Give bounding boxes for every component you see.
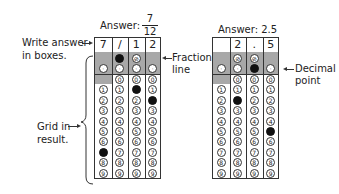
- digit-bubble-4[interactable]: 4: [217, 117, 226, 126]
- digit-bubble-9[interactable]: 9: [148, 169, 157, 178]
- digit-bubble-4[interactable]: 4: [99, 117, 108, 126]
- digit-bubble-1[interactable]: 1: [233, 85, 242, 94]
- digit-bubble-6[interactable]: 6: [148, 137, 157, 146]
- digit-bubble-5[interactable]: 5: [217, 127, 226, 136]
- decimal-point-bubble[interactable]: ·: [250, 64, 259, 73]
- digit-bubble-4[interactable]: 4: [148, 117, 157, 126]
- digit-bubble-3[interactable]: 3: [217, 106, 226, 115]
- grid-in-line2: result.: [37, 133, 70, 146]
- digit-bubble-7[interactable]: 7: [132, 148, 141, 157]
- digit-bubble-8[interactable]: 8: [148, 158, 157, 167]
- right-answer-title: Answer: 2.5: [218, 24, 277, 36]
- digit-bubble-9[interactable]: 9: [266, 169, 275, 178]
- decimal-point-bubble[interactable]: ·: [217, 64, 226, 73]
- digit-bubble-5[interactable]: 5: [99, 127, 108, 136]
- digit-bubble-6[interactable]: 6: [217, 137, 226, 146]
- digit-bubble-2[interactable]: 2: [233, 96, 242, 105]
- digit-bubble-3[interactable]: 3: [148, 106, 157, 115]
- digit-bubble-5[interactable]: 5: [132, 127, 141, 136]
- digit-bubble-6[interactable]: 6: [115, 137, 124, 146]
- answer-box[interactable]: [213, 38, 230, 52]
- digit-bubble-8[interactable]: 8: [217, 158, 226, 167]
- digit-bubble-0[interactable]: 0: [250, 75, 259, 84]
- digit-bubble-2[interactable]: 2: [99, 96, 108, 105]
- digit-bubble-8[interactable]: 8: [266, 158, 275, 167]
- digit-bubble-4[interactable]: 4: [266, 117, 275, 126]
- digit-bubble-9[interactable]: 9: [115, 169, 124, 178]
- digit-bubble-4[interactable]: 4: [250, 117, 259, 126]
- answer-box[interactable]: 1: [128, 38, 145, 52]
- digit-bubble-3[interactable]: 3: [250, 106, 259, 115]
- digit-bubble-6[interactable]: 6: [132, 137, 141, 146]
- digit-bubble-5[interactable]: 5: [266, 127, 275, 136]
- digit-bubble-8[interactable]: 8: [99, 158, 108, 167]
- digit-bubble-3[interactable]: 3: [132, 106, 141, 115]
- digit-bubble-6[interactable]: 6: [266, 137, 275, 146]
- digit-bubble-7[interactable]: 7: [148, 148, 157, 157]
- digit-bubble-7[interactable]: 7: [250, 148, 259, 157]
- write-answer-line1: Write answer: [22, 36, 88, 49]
- digit-bubble-0[interactable]: 0: [132, 75, 141, 84]
- digit-bubble-9[interactable]: 9: [99, 169, 108, 178]
- digit-bubble-4[interactable]: 4: [115, 117, 124, 126]
- decimal-point-bubble[interactable]: ·: [99, 64, 108, 73]
- digit-bubble-8[interactable]: 8: [132, 158, 141, 167]
- digit-bubble-2[interactable]: 2: [132, 96, 141, 105]
- digit-bubble-9[interactable]: 9: [217, 169, 226, 178]
- digit-bubble-3[interactable]: 3: [266, 106, 275, 115]
- digit-bubble-3[interactable]: 3: [233, 106, 242, 115]
- answer-box[interactable]: /: [112, 38, 129, 52]
- digit-bubble-8[interactable]: 8: [250, 158, 259, 167]
- digit-bubble-7[interactable]: 7: [115, 148, 124, 157]
- digit-bubble-1[interactable]: 1: [217, 85, 226, 94]
- column-divider: [112, 38, 113, 178]
- digit-bubble-2[interactable]: 2: [250, 96, 259, 105]
- digit-bubble-4[interactable]: 4: [132, 117, 141, 126]
- digit-bubble-7[interactable]: 7: [99, 148, 108, 157]
- digit-bubble-5[interactable]: 5: [233, 127, 242, 136]
- digit-bubble-2[interactable]: 2: [115, 96, 124, 105]
- digit-bubble-1[interactable]: 1: [132, 85, 141, 94]
- answer-box[interactable]: 7: [95, 38, 112, 52]
- fraction-slash-bubble[interactable]: ⊘: [132, 54, 141, 63]
- digit-bubble-5[interactable]: 5: [115, 127, 124, 136]
- answer-box[interactable]: 5: [263, 38, 280, 52]
- digit-bubble-1[interactable]: 1: [148, 85, 157, 94]
- digit-bubble-3[interactable]: 3: [99, 106, 108, 115]
- answer-box[interactable]: 2: [145, 38, 162, 52]
- digit-bubble-8[interactable]: 8: [233, 158, 242, 167]
- digit-bubble-6[interactable]: 6: [250, 137, 259, 146]
- digit-bubble-8[interactable]: 8: [115, 158, 124, 167]
- left-answer-fraction: 7 12: [142, 14, 158, 37]
- answer-box[interactable]: 2: [230, 38, 247, 52]
- digit-bubble-7[interactable]: 7: [266, 148, 275, 157]
- digit-bubble-7[interactable]: 7: [233, 148, 242, 157]
- decimal-point-bubble[interactable]: ·: [132, 64, 141, 73]
- digit-bubble-5[interactable]: 5: [148, 127, 157, 136]
- digit-bubble-1[interactable]: 1: [250, 85, 259, 94]
- digit-bubble-2[interactable]: 2: [148, 96, 157, 105]
- digit-bubble-9[interactable]: 9: [250, 169, 259, 178]
- digit-bubble-5[interactable]: 5: [250, 127, 259, 136]
- digit-bubble-0[interactable]: 0: [115, 75, 124, 84]
- fraction-line-callout: Fraction line: [172, 52, 212, 76]
- digit-bubble-0[interactable]: 0: [266, 75, 275, 84]
- digit-bubble-4[interactable]: 4: [233, 117, 242, 126]
- answer-box[interactable]: .: [246, 38, 263, 52]
- digit-bubble-1[interactable]: 1: [99, 85, 108, 94]
- digit-bubble-2[interactable]: 2: [266, 96, 275, 105]
- digit-bubble-6[interactable]: 6: [233, 137, 242, 146]
- decimal-point-callout: Decimal point: [295, 63, 336, 87]
- digit-bubble-0[interactable]: 0: [148, 75, 157, 84]
- grid-in-line1: Grid in: [37, 120, 70, 133]
- digit-bubble-9[interactable]: 9: [132, 169, 141, 178]
- digit-bubble-0[interactable]: 0: [233, 75, 242, 84]
- digit-bubble-7[interactable]: 7: [217, 148, 226, 157]
- fraction-slash-bubble[interactable]: ⊘: [250, 54, 259, 63]
- digit-bubble-6[interactable]: 6: [99, 137, 108, 146]
- digit-bubble-1[interactable]: 1: [266, 85, 275, 94]
- digit-bubble-3[interactable]: 3: [115, 106, 124, 115]
- digit-bubble-2[interactable]: 2: [217, 96, 226, 105]
- digit-bubble-9[interactable]: 9: [233, 169, 242, 178]
- digit-bubble-1[interactable]: 1: [115, 85, 124, 94]
